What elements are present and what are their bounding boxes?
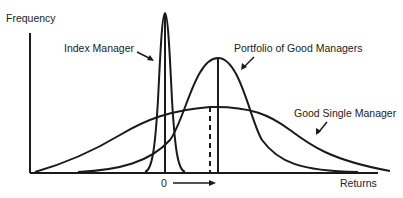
single-manager-label: Good Single Manager bbox=[294, 107, 396, 119]
x-axis-label: Returns bbox=[340, 177, 377, 189]
y-axis-label: Frequency bbox=[6, 12, 56, 24]
single-manager-pointer-head bbox=[316, 128, 321, 135]
returns-distribution-diagram bbox=[0, 0, 403, 198]
portfolio-label: Portfolio of Good Managers bbox=[234, 42, 362, 54]
shift-arrow-head bbox=[209, 180, 216, 186]
zero-tick-label: 0 bbox=[161, 177, 167, 189]
index-manager-label: Index Manager bbox=[64, 42, 134, 54]
